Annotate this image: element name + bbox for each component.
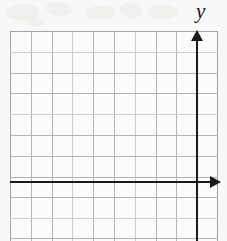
gridline-vertical xyxy=(72,31,73,241)
gridline-horizontal xyxy=(10,156,218,157)
gridline-vertical xyxy=(93,31,94,241)
gridline-horizontal xyxy=(10,52,218,53)
graph-grid xyxy=(10,31,218,241)
gridline-horizontal xyxy=(10,31,218,32)
gridline-vertical xyxy=(10,31,11,241)
gridline-vertical xyxy=(176,31,177,241)
scan-bleed-artifact xyxy=(86,5,117,20)
gridline-horizontal xyxy=(10,218,218,219)
x-axis-arrow-icon xyxy=(210,176,221,188)
gridline-vertical xyxy=(217,31,218,241)
gridline-vertical xyxy=(135,31,136,241)
scan-bleed-artifact xyxy=(5,2,40,21)
scan-bleed-artifact xyxy=(46,1,73,17)
gridline-horizontal xyxy=(10,238,218,239)
gridline-vertical xyxy=(114,31,115,241)
scan-bleed-artifact xyxy=(119,2,143,20)
y-axis-arrow-icon xyxy=(191,30,203,41)
gridline-horizontal xyxy=(10,177,218,178)
gridline-horizontal xyxy=(10,93,218,94)
y-axis-line xyxy=(196,38,198,241)
gridline-vertical xyxy=(156,31,157,241)
coordinate-plane-figure: y xyxy=(0,0,227,241)
gridline-horizontal xyxy=(10,73,218,74)
gridline-horizontal xyxy=(10,135,218,136)
x-axis-line xyxy=(10,181,213,183)
gridline-horizontal xyxy=(10,197,218,198)
scan-bleed-artifact xyxy=(147,4,178,21)
gridline-horizontal xyxy=(10,114,218,115)
scan-bleed-artifact xyxy=(23,14,44,27)
gridline-vertical xyxy=(52,31,53,241)
y-axis-label: y xyxy=(196,1,205,22)
gridline-vertical xyxy=(31,31,32,241)
